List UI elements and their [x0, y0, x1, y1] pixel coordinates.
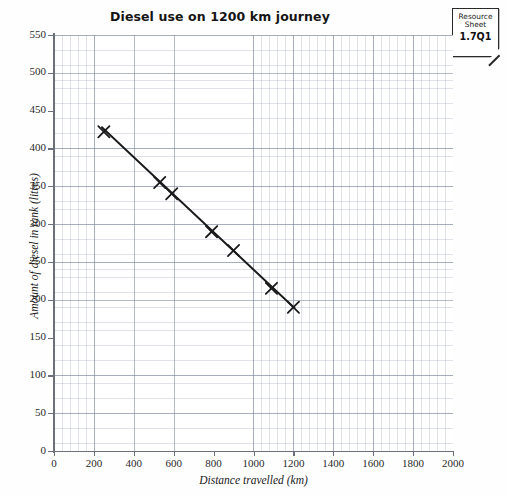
data-point-marker: [206, 226, 217, 237]
x-tick-label-800: 800: [205, 457, 222, 469]
x-tick-label-600: 600: [165, 457, 182, 469]
data-series-layer: [54, 35, 453, 451]
x-tick-label-0: 0: [51, 457, 57, 469]
best-fit-line: [102, 127, 295, 308]
data-point-marker: [228, 245, 239, 256]
y-axis-title: Amount of diesel in tank (litres): [28, 146, 40, 346]
x-tick-mark-1800: [413, 451, 414, 456]
data-point-marker: [266, 283, 277, 294]
x-tick-label-1600: 1600: [362, 457, 384, 469]
x-tick-mark-1200: [293, 451, 294, 456]
x-tick-label-1800: 1800: [402, 457, 424, 469]
x-axis-title: Distance travelled (km): [54, 474, 453, 486]
x-tick-mark-400: [134, 451, 135, 456]
x-tick-mark-600: [174, 451, 175, 456]
data-point-marker: [154, 177, 165, 188]
x-tick-label-400: 400: [126, 457, 143, 469]
x-tick-mark-200: [94, 451, 95, 456]
worksheet-page: Diesel use on 1200 km journey Resource S…: [0, 0, 507, 496]
trend-line: [102, 127, 295, 308]
x-tick-mark-1600: [373, 451, 374, 456]
x-tick-label-1000: 1000: [243, 457, 265, 469]
x-tick-mark-0: [54, 451, 55, 456]
x-tick-label-1400: 1400: [322, 457, 344, 469]
data-point-markers: [98, 126, 299, 313]
data-point-marker: [166, 188, 177, 199]
x-tick-label-2000: 2000: [442, 457, 464, 469]
x-tick-mark-2000: [453, 451, 454, 456]
x-tick-mark-1000: [254, 451, 255, 456]
x-tick-mark-1400: [333, 451, 334, 456]
x-tick-label-200: 200: [86, 457, 103, 469]
data-point-marker: [288, 302, 299, 313]
x-tick-mark-800: [214, 451, 215, 456]
x-tick-label-1200: 1200: [282, 457, 304, 469]
